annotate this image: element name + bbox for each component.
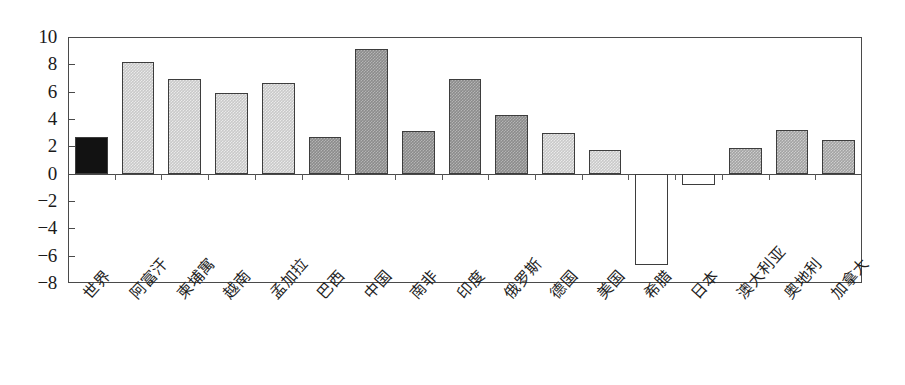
x-axis: 世界阿富汗柬埔寓越南孟加拉巴西中国南非印度俄罗斯德国美国希腊日本澳大利亚奥地利加…: [0, 0, 905, 385]
x-axis-tick-mark: [348, 174, 349, 180]
x-axis-tick-label: 南非: [407, 267, 441, 302]
x-axis-tick-mark: [769, 174, 770, 180]
x-axis-tick-label: 俄罗斯: [501, 255, 546, 302]
x-axis-tick-label: 加拿大: [828, 255, 873, 302]
x-axis-tick-mark: [442, 174, 443, 180]
x-axis-tick-mark: [488, 174, 489, 180]
x-axis-tick-mark: [722, 174, 723, 180]
x-axis-tick-label: 孟加拉: [267, 255, 312, 302]
x-axis-tick-mark: [628, 174, 629, 180]
x-axis-tick-mark: [255, 174, 256, 180]
x-axis-tick-mark: [395, 174, 396, 180]
x-axis-tick-label: 德国: [547, 267, 581, 302]
x-axis-tick-mark: [161, 174, 162, 180]
x-axis-tick-label: 澳大利亚: [734, 243, 790, 303]
x-axis-tick-mark: [815, 174, 816, 180]
x-axis-tick-label: 柬埔寓: [174, 255, 219, 302]
x-axis-tick-label: 奥地利: [781, 255, 826, 302]
x-axis-tick-label: 美国: [594, 267, 628, 302]
x-axis-tick-mark: [535, 174, 536, 180]
bar-chart: 1086420−2−4−6−8 世界阿富汗柬埔寓越南孟加拉巴西中国南非印度俄罗斯…: [0, 0, 905, 385]
x-axis-tick-label: 印度: [454, 267, 488, 302]
x-axis-tick-label: 越南: [220, 267, 254, 302]
x-axis-tick-label: 中国: [361, 267, 395, 302]
x-axis-tick-mark: [208, 174, 209, 180]
x-axis-tick-mark: [582, 174, 583, 180]
x-axis-tick-mark: [115, 174, 116, 180]
x-axis-tick-label: 日本: [688, 267, 722, 302]
x-axis-tick-label: 阿富汗: [127, 255, 172, 302]
x-axis-tick-label: 世界: [80, 267, 114, 302]
x-axis-tick-label: 巴西: [314, 267, 348, 302]
x-axis-tick-mark: [302, 174, 303, 180]
x-axis-tick-mark: [675, 174, 676, 180]
x-axis-tick-label: 希腊: [641, 267, 675, 302]
